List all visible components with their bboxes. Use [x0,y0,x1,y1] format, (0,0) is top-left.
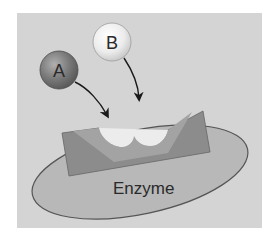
substrate-a: A [40,51,78,89]
enzyme-label: Enzyme [113,179,174,198]
substrate-b-label: B [106,33,118,53]
substrate-a-label: A [53,61,65,81]
enzyme-substrate-diagram: Enzyme A B [0,0,276,237]
substrate-b: B [93,23,131,61]
